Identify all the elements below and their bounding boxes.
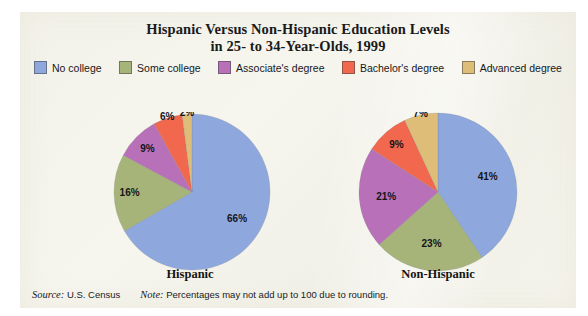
pie-slice-label: 9% [140,143,155,154]
legend-item-some-college[interactable]: Some college [119,61,201,74]
pie-slice-label: 16% [120,187,140,198]
legend-label-no-college: No college [52,62,102,74]
chart-title-line-1: Hispanic Versus Non-Hispanic Education L… [146,21,449,37]
footer-source-label: Source: [32,289,64,300]
legend-swatch-icon-no-college [34,61,47,74]
chart-title: Hispanic Versus Non-Hispanic Education L… [20,21,576,54]
chart-legend: No college Some college Associate's degr… [34,61,562,74]
footer-source-value: U.S. Census [67,289,120,300]
pie-slice-label: 23% [422,238,442,249]
pie-slice-label: 9% [389,139,404,150]
pie-slice-label: 6% [160,112,175,122]
footer-source: Source: U.S. Census [32,289,120,300]
legend-item-associates-degree[interactable]: Associate's degree [218,61,324,74]
chart-title-line-2: in 25- to 34-Year-Olds, 1999 [20,38,576,55]
legend-label-advanced-degree: Advanced degree [480,62,562,74]
pie-chart-non-hispanic: 41%23%21%9%7% [358,112,518,272]
footer-note: Note: Percentages may not add up to 100 … [140,289,388,300]
legend-swatch-icon-bachelors-degree [342,61,355,74]
legend-item-no-college[interactable]: No college [34,61,102,74]
legend-swatch-icon-some-college [119,61,132,74]
chart-figure: Hispanic Versus Non-Hispanic Education L… [0,0,588,316]
chart-footer: Source: U.S. Census Note: Percentages ma… [32,289,568,300]
pie-slice-label: 41% [478,171,498,182]
legend-swatch-icon-associates-degree [218,61,231,74]
legend-item-advanced-degree[interactable]: Advanced degree [462,61,562,74]
footer-note-value: Percentages may not add up to 100 due to… [166,289,388,300]
pie-hispanic-svg: 66%16%9%6%2% [112,112,272,272]
legend-label-some-college: Some college [137,62,201,74]
pie-caption-non-hispanic: Non-Hispanic [353,267,523,282]
pie-slice-label: 7% [413,112,428,119]
pie-caption-hispanic: Hispanic [105,267,275,282]
pie-slice-label: 66% [227,213,247,224]
legend-label-bachelors-degree: Bachelor's degree [360,62,444,74]
legend-swatch-icon-advanced-degree [462,61,475,74]
legend-label-associates-degree: Associate's degree [236,62,324,74]
legend-item-bachelors-degree[interactable]: Bachelor's degree [342,61,444,74]
pie-slice-label: 2% [180,112,195,118]
chart-panel: Hispanic Versus Non-Hispanic Education L… [20,12,576,308]
footer-note-label: Note: [140,289,163,300]
pie-chart-hispanic: 66%16%9%6%2% [112,112,272,272]
pie-non-hispanic-svg: 41%23%21%9%7% [358,112,518,272]
pie-slice-label: 21% [376,191,396,202]
